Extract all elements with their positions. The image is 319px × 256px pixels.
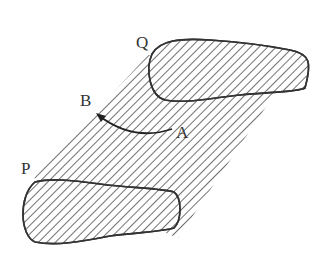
label-A: A <box>176 124 188 141</box>
lower-region <box>23 180 180 244</box>
upper-region <box>149 39 309 101</box>
label-Q: Q <box>136 34 148 51</box>
diagram-canvas <box>0 0 319 256</box>
label-P: P <box>21 160 30 177</box>
label-B: B <box>80 92 91 109</box>
